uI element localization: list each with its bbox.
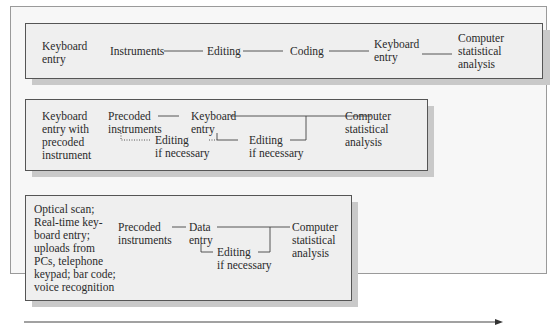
timeline-arrow-icon (24, 318, 504, 326)
row3-method-l3: board entry; (34, 229, 90, 242)
row3-step-analysis-l3: analysis (292, 247, 329, 260)
row2-method-l4: instrument (42, 149, 91, 162)
row2-step-keyboard-l2: entry (191, 123, 215, 136)
row3-step-precoded-l2: instruments (118, 234, 172, 247)
row3-step-data-l2: entry (189, 234, 213, 247)
row2-method-l2: entry with (42, 123, 89, 136)
row2-method-l3: precoded (42, 136, 84, 149)
row3-step-precoded-l1: Precoded (118, 221, 161, 234)
row1-step-instruments: Instruments (110, 45, 164, 58)
row1-method-line2: entry (42, 53, 66, 66)
row2-step-editing1-l1: Editing (155, 134, 189, 147)
row2-step-analysis-l3: analysis (345, 136, 382, 149)
row2-step-precoded-l2: instruments (108, 123, 162, 136)
row2-step-editing2-l2: if necessary (249, 147, 304, 160)
row2-step-editing1-l2: if necessary (155, 147, 210, 160)
row1-step-analysis-l3: analysis (458, 58, 495, 71)
row3-method-l4: uploads from (34, 242, 95, 255)
row3-step-editing-l2: if necessary (217, 259, 272, 272)
row1-step-editing: Editing (207, 45, 241, 58)
row3-step-data-l1: Data (189, 221, 211, 234)
row3-method-l5: PCs, telephone (34, 255, 103, 268)
row3-step-editing-l1: Editing (217, 246, 251, 259)
row1-step-analysis-l1: Computer (458, 32, 504, 45)
row2-step-analysis-l1: Computer (345, 110, 391, 123)
row2-step-analysis-l2: statistical (345, 123, 388, 136)
row2-step-keyboard-l1: Keyboard (191, 110, 236, 123)
row2-step-editing2-l1: Editing (249, 134, 283, 147)
row3-method-l6: keypad; bar code; (34, 268, 116, 281)
row1-step-keyboard-l2: entry (374, 51, 398, 64)
row3-step-analysis-l2: statistical (292, 234, 335, 247)
row1-method-line1: Keyboard (42, 40, 87, 53)
row1-step-keyboard-l1: Keyboard (374, 38, 419, 51)
row2-step-precoded-l1: Precoded (108, 110, 151, 123)
row1-step-coding: Coding (290, 45, 324, 58)
row3-step-analysis-l1: Computer (292, 221, 338, 234)
row3-method-l2: Real-time key- (34, 216, 103, 229)
row1-step-analysis-l2: statistical (458, 45, 501, 58)
row3-method-l7: voice recognition (34, 281, 114, 294)
row2-method-l1: Keyboard (42, 110, 87, 123)
row3-method-l1: Optical scan; (34, 203, 94, 216)
